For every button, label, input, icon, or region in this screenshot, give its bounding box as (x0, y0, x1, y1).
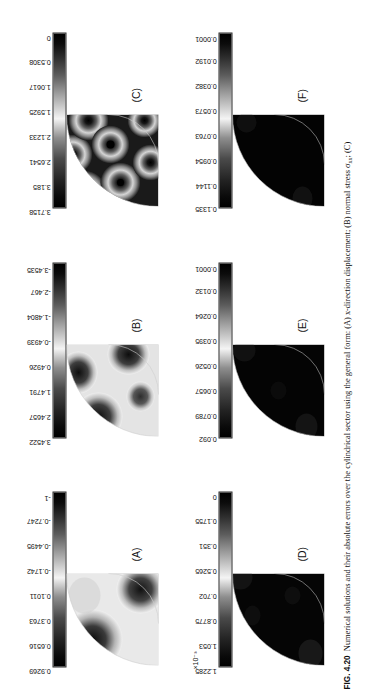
colorbar-ticks-E: 0.092 0.0789 0.0657 0.0526 0.0395 0.0264… (192, 262, 216, 438)
colorbar-tick: 1.0617 (29, 83, 50, 90)
colorbar-B: 3.4522 2.4657 1.4791 0.4926 -0.4939 -1.4… (26, 262, 68, 438)
colorbar-A: 0.9269 0.6516 0.3763 0.1011 -0.1742 -0.4… (26, 491, 68, 667)
panel-A: 0.9269 0.6516 0.3763 0.1011 -0.1742 -0.4… (4, 477, 156, 689)
sector-plot-E (232, 344, 324, 436)
colorbar-tick: -0.4939 (26, 338, 50, 345)
colorbar-tick: 0.0526 (195, 362, 216, 369)
colorbar-tick: -3.4535 (26, 266, 50, 273)
colorbar-tick: 1.2285 (195, 667, 216, 674)
colorbar-tick: 0 (46, 34, 50, 41)
figure-caption-subscript: xx (347, 157, 353, 163)
colorbar-tick: -1 (44, 494, 50, 501)
colorbar-gradient-D (218, 491, 232, 667)
figure-caption: FIG. 4.20 Numerical solutions and their … (342, 9, 355, 689)
colorbar-tick: 0.0001 (195, 35, 216, 42)
colorbar-tick: 0.0395 (195, 337, 216, 344)
colorbar-tick: 0.5308 (29, 58, 50, 65)
colorbar-tick: 1.4791 (29, 388, 50, 395)
colorbar-tick: -2.467 (30, 288, 50, 295)
colorbar-tick: 0.0192 (195, 57, 216, 64)
colorbar-tick: 0.1335 (195, 205, 216, 212)
colorbar-tick: 0.4926 (29, 363, 50, 370)
colorbar-ticks-D: ×10⁻³ 1.2285 1.053 0.8775 0.702 0.5265 0… (192, 491, 216, 667)
colorbar-tick: 0.351 (199, 542, 217, 549)
colorbar-gradient-A (52, 491, 66, 667)
sector-plot-D (232, 573, 324, 665)
panel-F: 0.1335 0.1144 0.0954 0.0763 0.0573 0.038… (170, 18, 322, 230)
colorbar-F: 0.1335 0.1144 0.0954 0.0763 0.0573 0.038… (192, 32, 234, 208)
colorbar-tick: 1.053 (199, 642, 217, 649)
colorbar-tick: 0.0954 (195, 157, 216, 164)
rotated-page-wrapper: 0.9269 0.6516 0.3763 0.1011 -0.1742 -0.4… (0, 0, 383, 699)
colorbar-gradient-E (218, 262, 232, 438)
colorbar-gradient-B (52, 262, 66, 438)
panel-label-F: (F) (296, 89, 307, 102)
sector-plot-F (232, 114, 324, 206)
colorbar-D: ×10⁻³ 1.2285 1.053 0.8775 0.702 0.5265 0… (192, 491, 234, 667)
colorbar-tick: 0.8775 (195, 617, 216, 624)
panel-D: ×10⁻³ 1.2285 1.053 0.8775 0.702 0.5265 0… (170, 477, 322, 689)
colorbar-tick: 0.1755 (195, 517, 216, 524)
colorbar-tick: -1.4804 (26, 313, 50, 320)
colorbar-tick: 2.1233 (29, 133, 50, 140)
figure-page: 0.9269 0.6516 0.3763 0.1011 -0.1742 -0.4… (0, 0, 383, 699)
colorbar-tick: 0.1011 (29, 592, 50, 599)
colorbar-tick: 0.0763 (195, 132, 216, 139)
colorbar-ticks-B: 3.4522 2.4657 1.4791 0.4926 -0.4939 -1.4… (26, 262, 50, 438)
colorbar-tick: 3.7158 (29, 208, 50, 215)
colorbar-tick: 0.5265 (195, 567, 216, 574)
colorbar-tick: 0.0657 (195, 387, 216, 394)
sector-plot-C (66, 114, 158, 206)
panel-C: 3.7158 3.185 2.6541 2.1233 1.5925 1.0617… (4, 18, 156, 230)
colorbar-tick: -0.7247 (26, 517, 50, 524)
figure-number: FIG. 4.20 (342, 655, 351, 689)
colorbar-ticks-F: 0.1335 0.1144 0.0954 0.0763 0.0573 0.038… (192, 32, 216, 208)
colorbar-tick: 0.0132 (195, 287, 216, 294)
colorbar-tick: 2.4657 (29, 413, 50, 420)
colorbar-tick: 0.1144 (195, 182, 216, 189)
colorbar-tick: 0.0001 (195, 265, 216, 272)
colorbar-tick: 0.702 (199, 592, 217, 599)
colorbar-tick: 2.6541 (29, 158, 50, 165)
colorbar-tick: -0.4495 (26, 542, 50, 549)
sector-plot-A (66, 573, 158, 665)
colorbar-tick: 1.5925 (29, 108, 50, 115)
colorbar-E: 0.092 0.0789 0.0657 0.0526 0.0395 0.0264… (192, 262, 234, 438)
colorbar-tick: 0 (212, 493, 216, 500)
colorbar-tick: 0.0382 (195, 82, 216, 89)
colorbar-tick: 0.0573 (195, 107, 216, 114)
panel-label-C: (C) (130, 87, 141, 102)
panel-E: 0.092 0.0789 0.0657 0.0526 0.0395 0.0264… (170, 248, 322, 460)
colorbar-tick: 0.092 (199, 435, 217, 442)
panel-label-B: (B) (130, 318, 141, 332)
colorbar-tick: 0.9269 (29, 667, 50, 674)
colorbar-tick: 0.6516 (29, 642, 50, 649)
panel-grid: 0.9269 0.6516 0.3763 0.1011 -0.1742 -0.4… (4, 8, 322, 691)
figure-caption-tail: ; (C) (342, 141, 351, 157)
colorbar-tick: 3.4522 (29, 438, 50, 445)
colorbar-gradient-C (52, 32, 66, 208)
panel-B: 3.4522 2.4657 1.4791 0.4926 -0.4939 -1.4… (4, 248, 156, 460)
colorbar-gradient-F (218, 32, 232, 208)
sector-plot-B (66, 344, 158, 436)
panel-label-E: (E) (296, 318, 307, 332)
colorbar-ticks-C: 3.7158 3.185 2.6541 2.1233 1.5925 1.0617… (26, 32, 50, 208)
colorbar-ticks-A: 0.9269 0.6516 0.3763 0.1011 -0.1742 -0.4… (26, 491, 50, 667)
panel-label-A: (A) (130, 547, 141, 561)
figure-caption-text: Numerical solutions and their absolute e… (342, 163, 351, 651)
colorbar-tick: 0.0789 (195, 412, 216, 419)
panel-label-D: (D) (296, 546, 307, 561)
colorbar-tick: -0.1742 (26, 567, 50, 574)
colorbar-tick: 0.3763 (29, 617, 50, 624)
colorbar-tick: 3.185 (33, 183, 51, 190)
colorbar-C: 3.7158 3.185 2.6541 2.1233 1.5925 1.0617… (26, 32, 68, 208)
colorbar-tick: 0.0264 (195, 312, 216, 319)
